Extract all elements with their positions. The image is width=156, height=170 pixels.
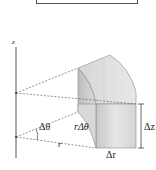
r-label: r — [58, 140, 62, 149]
delta-theta-label: Δθ — [39, 122, 50, 132]
r-delta-theta-label: rΔθ — [74, 122, 89, 132]
upper-wedge — [78, 55, 136, 112]
cylindrical-volume-element-diagram — [0, 0, 156, 170]
delta-theta-arc-icon — [36, 129, 38, 140]
delta-z-label: Δz — [144, 122, 155, 132]
z-axis-label: z — [12, 39, 15, 46]
delta-r-label: Δr — [106, 150, 116, 160]
